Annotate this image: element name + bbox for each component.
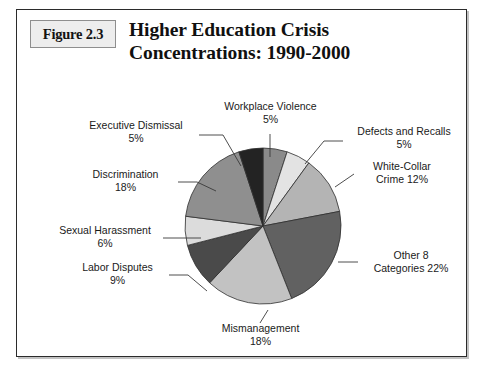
pie-label-mismanagement: Mismanagement 18% bbox=[194, 322, 327, 347]
pie-chart-plot-area: Workplace Violence 5% Executive Dismissa… bbox=[17, 10, 466, 356]
pie-label-defects-and-recalls: Defects and Recalls 5% bbox=[345, 125, 463, 150]
pie-slices bbox=[185, 148, 341, 304]
figure-frame: Figure 2.3 Higher Education Crisis Conce… bbox=[16, 9, 467, 357]
pie-label-white-collar-crime: White-Collar Crime 12% bbox=[357, 160, 447, 185]
pie-label-executive-dismissal: Executive Dismissal 5% bbox=[73, 119, 199, 144]
pie-label-discrimination: Discrimination 18% bbox=[75, 168, 176, 193]
pie-label-sexual-harassment: Sexual Harassment 6% bbox=[49, 224, 161, 249]
pie-label-other-8-categories: Other 8 Categories 22% bbox=[361, 249, 461, 274]
pie-label-labor-disputes: Labor Disputes 9% bbox=[68, 261, 167, 286]
pie-label-workplace-violence: Workplace Violence 5% bbox=[202, 100, 339, 125]
leader-line-white-collar-crime bbox=[335, 174, 354, 187]
leader-line-defects-and-recalls bbox=[305, 141, 343, 164]
leader-line-labor-disputes bbox=[169, 275, 207, 291]
